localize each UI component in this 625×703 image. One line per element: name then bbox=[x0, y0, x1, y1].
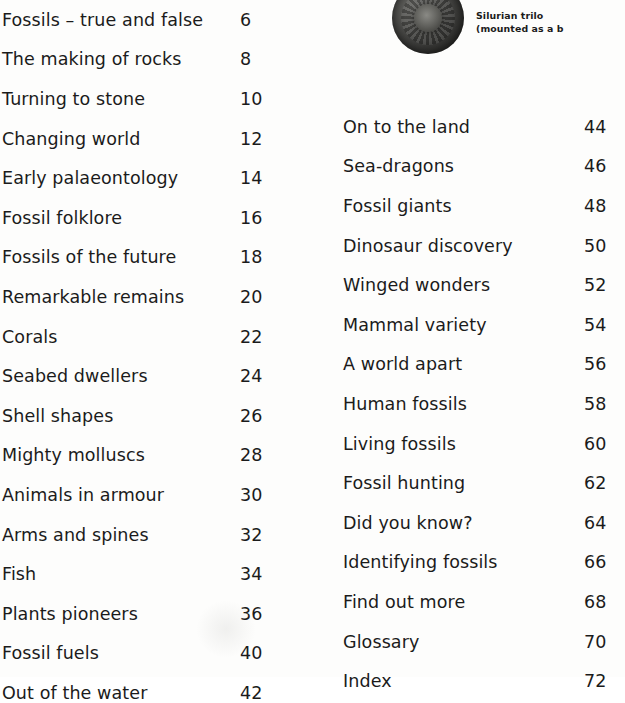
toc-entry[interactable]: On to the land44 bbox=[341, 107, 625, 147]
toc-entry[interactable]: Did you know?64 bbox=[341, 503, 625, 543]
toc-entry-title: Plants pioneers bbox=[2, 604, 138, 624]
toc-entry-inner: Mammal variety54 bbox=[341, 305, 625, 345]
toc-entry[interactable]: Mighty molluscs28 bbox=[0, 436, 300, 476]
toc-entry-inner: Shell shapes26 bbox=[0, 396, 300, 436]
toc-entry-page-number: 44 bbox=[584, 117, 606, 137]
toc-entry[interactable]: A world apart56 bbox=[341, 345, 625, 385]
toc-entry-page-number: 62 bbox=[584, 473, 606, 493]
toc-entry-page-number: 70 bbox=[584, 632, 606, 652]
toc-entry[interactable]: Early palaeontology14 bbox=[0, 158, 300, 198]
toc-entry[interactable]: Human fossils58 bbox=[341, 384, 625, 424]
toc-entry[interactable]: Plants pioneers36 bbox=[0, 594, 300, 634]
toc-entry[interactable]: Fossils – true and false6 bbox=[0, 0, 300, 40]
toc-entry[interactable]: Glossary70 bbox=[341, 622, 625, 662]
toc-entry-inner: Fossil hunting62 bbox=[341, 463, 625, 503]
toc-entry[interactable]: Mammal variety54 bbox=[341, 305, 625, 345]
toc-entry[interactable]: The making of rocks8 bbox=[0, 40, 300, 80]
toc-entry-title: Human fossils bbox=[343, 394, 467, 414]
toc-entry[interactable]: Winged wonders52 bbox=[341, 265, 625, 305]
toc-entry-title: Fossils of the future bbox=[2, 247, 176, 267]
toc-entry[interactable]: Sea-dragons46 bbox=[341, 147, 625, 187]
toc-entry-title: Did you know? bbox=[343, 513, 473, 533]
toc-entry-page-number: 22 bbox=[240, 327, 262, 347]
toc-entry-page-number: 10 bbox=[240, 89, 262, 109]
toc-entry-title: Mammal variety bbox=[343, 315, 487, 335]
toc-entry-title: A world apart bbox=[343, 354, 462, 374]
toc-entry-inner: A world apart56 bbox=[341, 345, 625, 385]
toc-entry-page-number: 34 bbox=[240, 564, 262, 584]
toc-entry[interactable]: Out of the water42 bbox=[0, 673, 300, 703]
toc-entry[interactable]: Identifying fossils66 bbox=[341, 543, 625, 583]
toc-entry-title: Dinosaur discovery bbox=[343, 236, 513, 256]
toc-entry-page-number: 30 bbox=[240, 485, 262, 505]
toc-entry-page-number: 64 bbox=[584, 513, 606, 533]
toc-entry[interactable]: Remarkable remains20 bbox=[0, 277, 300, 317]
toc-entry-page-number: 28 bbox=[240, 445, 262, 465]
toc-entry-inner: Glossary70 bbox=[341, 622, 625, 662]
toc-entry[interactable]: Fossil hunting62 bbox=[341, 463, 625, 503]
toc-entry-inner: Seabed dwellers24 bbox=[0, 356, 300, 396]
toc-entry-title: Living fossils bbox=[343, 434, 456, 454]
toc-entry-inner: Remarkable remains20 bbox=[0, 277, 300, 317]
toc-entry-page-number: 50 bbox=[584, 236, 606, 256]
toc-entry-inner: Fossil giants48 bbox=[341, 186, 625, 226]
toc-entry-page-number: 24 bbox=[240, 366, 262, 386]
toc-entry-inner: Index72 bbox=[341, 661, 625, 701]
toc-entry-inner: Living fossils60 bbox=[341, 424, 625, 464]
toc-entry[interactable]: Fish34 bbox=[0, 554, 300, 594]
toc-entry-page-number: 12 bbox=[240, 129, 262, 149]
toc-entry-inner: Corals22 bbox=[0, 317, 300, 357]
toc-entry-page-number: 32 bbox=[240, 525, 262, 545]
toc-entry-page-number: 60 bbox=[584, 434, 606, 454]
toc-entry-inner: Fossil fuels40 bbox=[0, 634, 300, 674]
toc-entry[interactable]: Corals22 bbox=[0, 317, 300, 357]
toc-entry-inner: Animals in armour30 bbox=[0, 475, 300, 515]
toc-entry-title: Remarkable remains bbox=[2, 287, 184, 307]
toc-entry[interactable]: Fossil giants48 bbox=[341, 186, 625, 226]
toc-entry-page-number: 52 bbox=[584, 275, 606, 295]
toc-column-left: Fossils – true and false6The making of r… bbox=[0, 0, 300, 703]
toc-entry[interactable]: Find out more68 bbox=[341, 582, 625, 622]
toc-entry-inner: Arms and spines32 bbox=[0, 515, 300, 555]
toc-entry[interactable]: Fossils of the future18 bbox=[0, 238, 300, 278]
toc-entry[interactable]: Seabed dwellers24 bbox=[0, 356, 300, 396]
toc-entry-title: Early palaeontology bbox=[2, 168, 178, 188]
toc-entry-page-number: 66 bbox=[584, 552, 606, 572]
toc-entry-inner: Fossils of the future18 bbox=[0, 238, 300, 278]
toc-entry-title: Fossil fuels bbox=[2, 643, 99, 663]
toc-entry-inner: Out of the water42 bbox=[0, 673, 300, 703]
toc-entry[interactable]: Living fossils60 bbox=[341, 424, 625, 464]
toc-entry-title: Turning to stone bbox=[2, 89, 145, 109]
toc-entry-inner: Sea-dragons46 bbox=[341, 147, 625, 187]
toc-entry[interactable]: Index72 bbox=[341, 661, 625, 701]
toc-entry-page-number: 20 bbox=[240, 287, 262, 307]
toc-entry-inner: Identifying fossils66 bbox=[341, 543, 625, 583]
toc-entry-page-number: 68 bbox=[584, 592, 606, 612]
toc-entry[interactable]: Fossil folklore16 bbox=[0, 198, 300, 238]
toc-entry-page-number: 36 bbox=[240, 604, 262, 624]
toc-entry[interactable]: Dinosaur discovery50 bbox=[341, 226, 625, 266]
toc-entry-page-number: 42 bbox=[240, 683, 262, 703]
toc-entry[interactable]: Fossil fuels40 bbox=[0, 634, 300, 674]
toc-entry-page-number: 26 bbox=[240, 406, 262, 426]
toc-entry[interactable]: Arms and spines32 bbox=[0, 515, 300, 555]
toc-entry-page-number: 6 bbox=[240, 10, 251, 30]
toc-entry-inner: Winged wonders52 bbox=[341, 265, 625, 305]
toc-entry-page-number: 72 bbox=[584, 671, 606, 691]
toc-entry-page-number: 56 bbox=[584, 354, 606, 374]
toc-entry-page-number: 54 bbox=[584, 315, 606, 335]
toc-entry-title: Changing world bbox=[2, 129, 140, 149]
toc-entry[interactable]: Animals in armour30 bbox=[0, 475, 300, 515]
toc-entry-inner: Human fossils58 bbox=[341, 384, 625, 424]
toc-entry[interactable]: Turning to stone10 bbox=[0, 79, 300, 119]
toc-entry[interactable]: Changing world12 bbox=[0, 119, 300, 159]
toc-entry-title: Fossil giants bbox=[343, 196, 452, 216]
toc-entry-inner: Fossils – true and false6 bbox=[0, 0, 300, 40]
toc-entry-inner: Early palaeontology14 bbox=[0, 158, 300, 198]
toc-entry-title: Corals bbox=[2, 327, 57, 347]
toc-entry-inner: Dinosaur discovery50 bbox=[341, 226, 625, 266]
toc-entry-inner: Changing world12 bbox=[0, 119, 300, 159]
toc-entry-inner: On to the land44 bbox=[341, 107, 625, 147]
toc-entry-title: Fossils – true and false bbox=[2, 10, 203, 30]
toc-entry[interactable]: Shell shapes26 bbox=[0, 396, 300, 436]
